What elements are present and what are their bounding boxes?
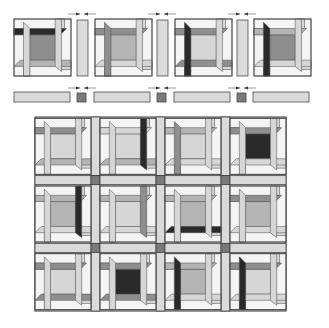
assembled-block-r1c2 [100, 118, 156, 174]
vertical-sashing-strip [77, 20, 88, 76]
bottom-bar [175, 60, 232, 66]
bottom-bar [35, 294, 91, 300]
center-square [181, 202, 206, 227]
bottom-bar [165, 226, 221, 232]
right-post [295, 19, 301, 72]
press-direction-arrows [228, 13, 256, 16]
bottom-bar [230, 159, 286, 165]
top-row-blocks-and-sashing [14, 13, 311, 77]
quilt-block-2 [95, 19, 152, 76]
cornerstone-square [221, 243, 230, 252]
vertical-sashing-strip [157, 20, 168, 76]
center-square [181, 269, 206, 294]
right-post [140, 254, 146, 306]
center-square [270, 35, 295, 60]
press-direction-arrows [228, 87, 256, 90]
horizontal-sashing-strip [253, 92, 309, 102]
center-square [51, 134, 76, 159]
bottom-bar [230, 294, 286, 300]
horizontal-sashing-strip [94, 92, 150, 102]
horizontal-sashing-strip [35, 243, 91, 252]
left-post [174, 189, 180, 242]
center-square [51, 269, 76, 294]
vertical-sashing-strip [91, 185, 100, 244]
cornerstone-square [157, 93, 166, 102]
center-square [116, 134, 141, 159]
vertical-sashing-strip [237, 20, 248, 76]
horizontal-sashing-strip [230, 243, 286, 252]
assembled-block-r2c1 [35, 186, 91, 242]
center-square [181, 134, 206, 159]
cornerstone-square [91, 176, 100, 185]
horizontal-sashing-strip [165, 176, 221, 185]
vertical-sashing-strip [91, 252, 100, 311]
right-post [75, 254, 81, 306]
center-square [116, 269, 141, 294]
bottom-bar [35, 159, 91, 165]
assembled-block-r3c4 [230, 254, 286, 310]
horizontal-sashing-strip [100, 176, 156, 185]
cornerstone-square [221, 176, 230, 185]
center-square [191, 35, 216, 60]
bottom-bar [35, 226, 91, 232]
right-post [140, 118, 146, 170]
right-post [205, 186, 211, 238]
bottom-bar [165, 159, 221, 165]
right-post [75, 186, 81, 238]
vertical-sashing-strip [156, 185, 165, 244]
horizontal-sashing-strip [230, 176, 286, 185]
right-post [55, 19, 61, 72]
right-post [270, 186, 276, 238]
center-square [246, 202, 271, 227]
right-post [75, 118, 81, 170]
quilt-block-4 [254, 19, 311, 76]
vertical-sashing-strip [156, 252, 165, 311]
center-square [111, 35, 136, 60]
assembled-block-r3c3 [165, 254, 221, 310]
left-post [44, 189, 50, 242]
assembled-block-r3c1 [35, 254, 91, 310]
bottom-bar [95, 60, 152, 66]
horizontal-sashing-strip [14, 92, 70, 102]
assembled-block-r1c3 [165, 118, 221, 174]
cornerstone-square [156, 176, 165, 185]
bottom-bar [100, 294, 156, 300]
bottom-bar [100, 226, 156, 232]
quilt-assembly-diagram [0, 0, 329, 328]
vertical-sashing-strip [91, 117, 100, 176]
left-post [185, 22, 191, 76]
center-square [30, 35, 55, 60]
left-post [174, 121, 180, 174]
press-direction-arrows [68, 87, 96, 90]
right-post [205, 254, 211, 306]
left-post [239, 121, 245, 174]
vertical-sashing-strip [156, 117, 165, 176]
left-post [44, 121, 50, 174]
assembled-block-r2c2 [100, 186, 156, 242]
left-post [174, 257, 180, 310]
assembled-quilt-top [35, 117, 286, 311]
right-post [140, 186, 146, 238]
press-direction-arrows [148, 87, 176, 90]
bottom-bar [165, 294, 221, 300]
cornerstone-square [91, 243, 100, 252]
vertical-sashing-strip [221, 185, 230, 244]
left-post [239, 257, 245, 310]
assembled-block-r1c1 [35, 118, 91, 174]
center-square [246, 134, 271, 159]
horizontal-sashing-strip [174, 92, 230, 102]
cornerstone-square [77, 93, 86, 102]
center-square [51, 202, 76, 227]
right-post [270, 118, 276, 170]
press-direction-arrows [68, 13, 96, 16]
quilt-block-1 [14, 19, 71, 76]
right-post [270, 254, 276, 306]
bottom-bar [230, 226, 286, 232]
left-post [24, 22, 30, 76]
left-post [109, 257, 115, 310]
left-post [239, 189, 245, 242]
horizontal-sashing-strip [35, 176, 91, 185]
right-post [205, 118, 211, 170]
right-post [216, 19, 222, 72]
left-post [264, 22, 270, 76]
